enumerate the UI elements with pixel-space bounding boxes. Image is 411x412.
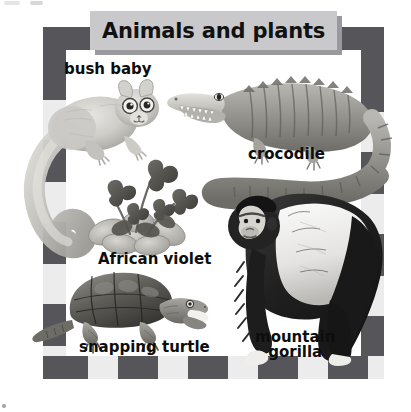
- frame-tile: [361, 50, 384, 112]
- frame-tile: [118, 356, 158, 379]
- label-snapping-turtle: snapping turtle: [79, 340, 210, 355]
- page-title: Animals and plants: [102, 19, 325, 43]
- frame-tile: [361, 194, 384, 234]
- checkered-frame: [43, 27, 384, 379]
- scan-artifact: [2, 404, 6, 408]
- frame-tile: [361, 152, 384, 194]
- label-mountain-gorilla-line2: gorilla: [255, 345, 335, 360]
- title-banner: Animals and plants: [90, 11, 337, 50]
- frame-tile: [43, 100, 66, 140]
- page-root: Animals and plants: [0, 0, 411, 412]
- label-african-violet: African violet: [98, 252, 211, 267]
- frame-tile: [43, 182, 66, 222]
- frame-tile: [361, 316, 384, 356]
- frame-tile: [361, 112, 384, 152]
- frame-tile: [361, 234, 384, 276]
- frame-tile: [43, 304, 66, 346]
- frame-tile: [43, 50, 66, 100]
- frame-interior: [66, 50, 361, 356]
- frame-tile: [158, 356, 188, 379]
- frame-tile: [228, 356, 258, 379]
- frame-tile: [88, 356, 118, 379]
- label-mountain-gorilla: mountain gorilla: [255, 330, 335, 361]
- frame-tile: [368, 356, 384, 379]
- frame-tile: [43, 346, 66, 356]
- frame-tile: [43, 27, 66, 50]
- scan-artifact: [30, 1, 43, 5]
- label-crocodile: crocodile: [248, 147, 325, 162]
- frame-tile: [43, 222, 66, 264]
- frame-tile: [188, 356, 228, 379]
- label-bush-baby: bush baby: [64, 62, 152, 77]
- frame-tile: [361, 276, 384, 316]
- frame-tile: [43, 140, 66, 182]
- frame-tile: [43, 356, 88, 379]
- frame-tile: [43, 264, 66, 304]
- scan-artifact: [4, 1, 20, 5]
